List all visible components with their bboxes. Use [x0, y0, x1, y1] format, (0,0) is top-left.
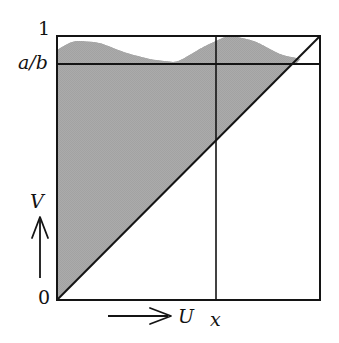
y-tick-label-a-over-b: a/b — [18, 53, 48, 72]
figure-root: 1 a/b 0 V U x — [0, 0, 339, 343]
u-axis-label: U — [178, 307, 194, 326]
y-tick-label-one: 1 — [38, 19, 50, 38]
up-arrow-icon — [32, 217, 48, 278]
right-arrow-icon — [108, 308, 171, 324]
x-tick-label: x — [210, 310, 221, 329]
v-axis-label: V — [30, 192, 44, 211]
origin-label-zero: 0 — [38, 288, 50, 307]
uv-region-diagram — [0, 0, 339, 343]
